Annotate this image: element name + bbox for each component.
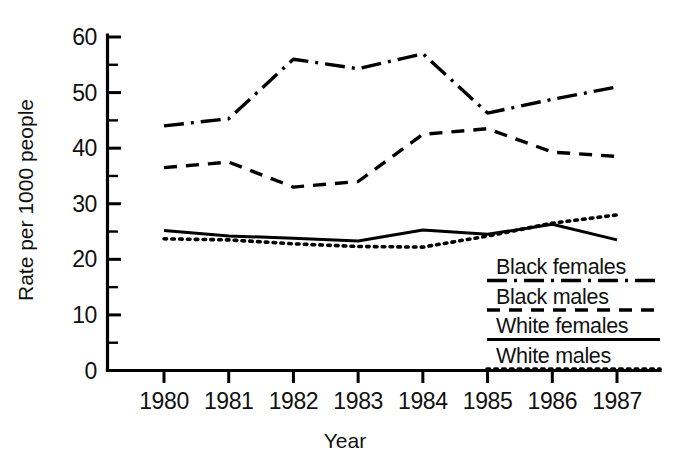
legend-label-white-females: White females [496, 314, 628, 338]
chart-legend: Black femalesBlack malesWhite femalesWhi… [487, 255, 660, 369]
x-axis-title: Year [324, 429, 366, 452]
line-chart: 0102030405060 19801981198219831984198519… [0, 0, 674, 468]
chart-canvas: 0102030405060 19801981198219831984198519… [0, 0, 674, 468]
y-tick-label: 30 [72, 191, 97, 217]
x-tick-label: 1984 [398, 388, 448, 414]
y-tick-label: 40 [72, 135, 97, 161]
x-axis-ticks [164, 371, 617, 384]
legend-label-white-males: White males [496, 344, 611, 368]
data-series-group: Black femalesBlack malesWhite femalesWhi… [164, 54, 617, 247]
x-tick-label: 1983 [333, 388, 383, 414]
y-tick-label: 0 [85, 358, 97, 384]
y-tick-label: 20 [72, 246, 97, 272]
y-axis-ticks [108, 37, 122, 371]
y-tick-label: 10 [72, 302, 97, 328]
x-tick-label: 1985 [463, 388, 513, 414]
y-tick-label: 60 [72, 24, 97, 50]
x-tick-label: 1982 [269, 388, 319, 414]
x-tick-label: 1980 [139, 388, 189, 414]
y-axis-title: Rate per 1000 people [14, 99, 37, 301]
legend-label-black-males: Black males [496, 285, 609, 309]
x-tick-label: 1986 [527, 388, 577, 414]
x-tick-label: 1987 [592, 388, 642, 414]
y-axis-tick-labels: 0102030405060 [72, 24, 97, 384]
series-line-black-males: Black males [164, 129, 617, 187]
series-line-white-females: White females [164, 224, 617, 241]
x-tick-label: 1981 [204, 388, 254, 414]
x-axis-tick-labels: 19801981198219831984198519861987 [139, 388, 642, 414]
series-line-black-females: Black females [164, 54, 617, 126]
legend-label-black-females: Black females [496, 255, 626, 279]
series-line-white-males: White males [164, 215, 617, 247]
y-tick-label: 50 [72, 80, 97, 106]
